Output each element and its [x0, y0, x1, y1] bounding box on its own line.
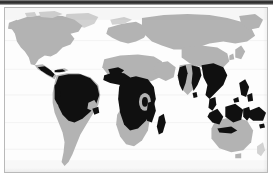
figure-container — [0, 0, 273, 181]
world-map-graphic — [5, 8, 267, 172]
scan-top-band — [0, 0, 273, 5]
map-plate-frame — [4, 7, 268, 173]
